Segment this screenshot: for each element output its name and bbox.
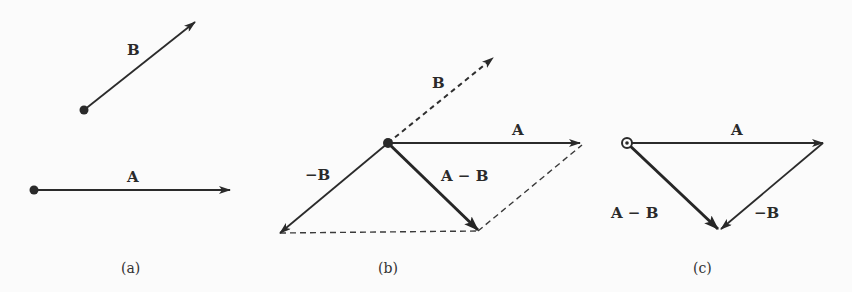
panel-a: B A (a) — [30, 22, 231, 276]
caption-c: (c) — [693, 260, 712, 276]
vector-b-label: B — [127, 41, 140, 59]
vector-neg-b-label: −B — [754, 204, 779, 222]
vector-a-minus-b-arrow — [388, 143, 478, 230]
vector-a-minus-b-label: A − B — [610, 204, 658, 222]
vector-a-label: A — [511, 121, 524, 139]
origin-dot — [383, 138, 393, 148]
vector-neg-b-label: −B — [305, 166, 330, 184]
vector-b-dashed-arrow — [388, 58, 493, 143]
vector-b-label: B — [432, 74, 445, 92]
vector-a-a: A — [30, 168, 231, 195]
vector-b-a: B — [80, 22, 196, 115]
origin-dot — [625, 141, 629, 145]
vector-a-label: A — [126, 168, 139, 186]
construction-line-right — [478, 145, 582, 231]
panel-c: A A − B −B (c) — [610, 121, 823, 276]
vector-neg-b-arrow — [280, 143, 388, 233]
panel-b: B A −B A − B (b) — [280, 58, 582, 276]
caption-b: (b) — [378, 260, 398, 276]
vector-b-arrow — [84, 22, 195, 110]
vector-subtraction-diagram: B A (a) B A −B A − B (b) A A − B −B ( — [0, 0, 852, 292]
construction-line-bottom — [280, 231, 478, 233]
caption-a: (a) — [121, 260, 140, 276]
vector-a-label: A — [730, 121, 743, 139]
vector-a-minus-b-label: A − B — [440, 167, 488, 185]
origin-dot — [80, 106, 89, 115]
origin-dot — [30, 186, 39, 195]
